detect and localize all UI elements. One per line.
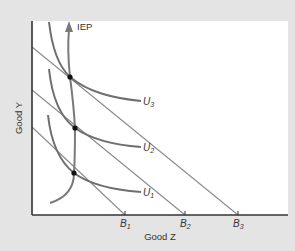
b2-label: B2 xyxy=(180,218,191,230)
chart: IEP U3 U2 U1 B1 B2 B3 Good Z Good Y xyxy=(0,0,295,251)
tangent-point-u1 xyxy=(71,170,76,175)
iep-label: IEP xyxy=(77,21,92,32)
b3-label: B3 xyxy=(233,218,244,230)
plot-area xyxy=(32,21,288,215)
tangent-point-u3 xyxy=(67,74,72,79)
y-axis-label: Good Y xyxy=(13,101,24,134)
b1-label: B1 xyxy=(120,218,131,230)
x-axis-label: Good Z xyxy=(144,231,176,242)
tangent-point-u2 xyxy=(72,125,77,130)
